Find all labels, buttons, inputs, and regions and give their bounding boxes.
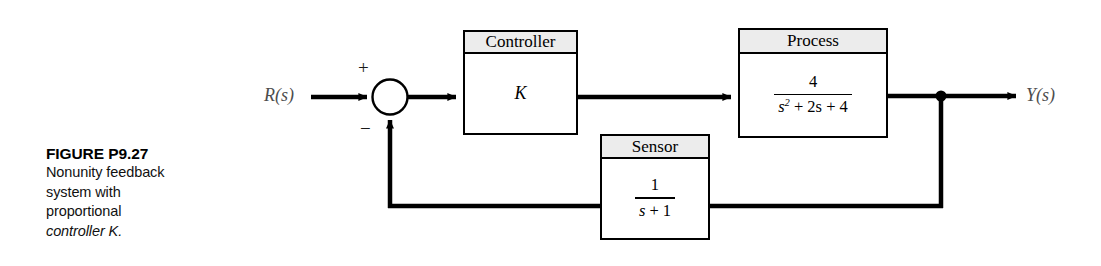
process-denominator: s2 + 2s + 4 <box>774 97 852 117</box>
block-controller: Controller K <box>463 30 578 135</box>
figure-container: FIGURE P9.27 Nonunity feedback system wi… <box>0 0 1101 266</box>
block-sensor-title: Sensor <box>602 136 708 159</box>
block-process-title: Process <box>740 30 886 54</box>
block-sensor: Sensor 1 s + 1 <box>600 134 710 240</box>
sensor-fraction-bar <box>635 197 675 199</box>
sensor-transfer-function: 1 s + 1 <box>635 176 675 220</box>
block-process-body: 4 s2 + 2s + 4 <box>740 54 886 136</box>
sensor-denominator: s + 1 <box>635 201 675 221</box>
block-controller-title: Controller <box>465 32 576 54</box>
sensor-den-var: s <box>639 201 645 220</box>
block-process: Process 4 s2 + 2s + 4 <box>738 28 888 138</box>
summing-junction <box>373 80 408 115</box>
sensor-den-rest: + 1 <box>649 201 671 220</box>
input-signal-text: R(s) <box>264 85 294 105</box>
output-signal-label: Y(s) <box>1026 85 1055 106</box>
sum-negative-sign: − <box>360 119 371 138</box>
process-numerator: 4 <box>774 73 852 93</box>
process-fraction-bar <box>774 94 852 96</box>
process-transfer-function: 4 s2 + 2s + 4 <box>774 73 852 117</box>
process-den-rest: + 2s + 4 <box>794 97 848 116</box>
sum-positive-sign: + <box>358 58 369 77</box>
process-den-exponent: 2 <box>785 97 790 108</box>
controller-gain-value: K <box>514 83 526 104</box>
input-signal-label: R(s) <box>264 85 294 106</box>
sensor-numerator: 1 <box>635 176 675 196</box>
output-signal-text: Y(s) <box>1026 85 1055 105</box>
block-controller-body: K <box>465 54 576 133</box>
block-sensor-body: 1 s + 1 <box>602 159 708 238</box>
